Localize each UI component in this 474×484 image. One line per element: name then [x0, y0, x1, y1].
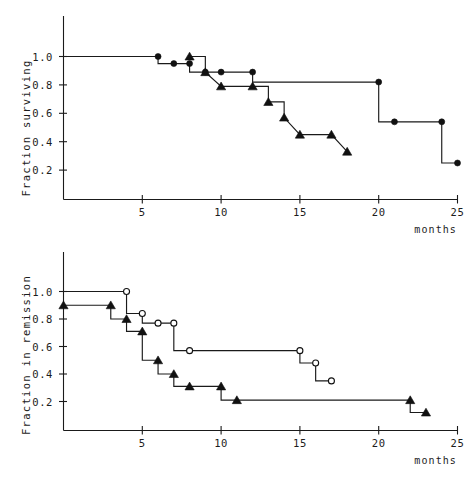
bottom-xtick-label-2: 10 [214, 437, 228, 449]
data-point-open-circle [297, 348, 303, 354]
top-ytick-label-4: 0.4 [32, 136, 53, 148]
data-point-filled-circle [376, 79, 382, 85]
bottom-xtick-label-4: 20 [372, 437, 386, 449]
data-point-filled-circle [250, 69, 256, 75]
survival-figure: 1.0 0.8 0.6 0.4 0.2 5 10 15 20 25 months… [0, 0, 474, 484]
data-point-filled-circle [171, 61, 177, 67]
top-ytick-label-3: 0.6 [32, 107, 53, 119]
data-point-filled-circle [155, 54, 161, 60]
top-series-filled-circle [64, 54, 461, 167]
data-point-open-circle [313, 360, 319, 366]
bottom-series-open-circle [64, 289, 335, 384]
bottom-chart-svg: 1.0 0.8 0.6 0.4 0.2 5 10 15 20 25 months… [0, 240, 474, 484]
top-xtick-label-4: 20 [372, 206, 386, 218]
bottom-y-axis-title: Fraction in remission [20, 275, 32, 435]
top-xtick-label-2: 10 [214, 206, 228, 218]
data-point-filled-circle [439, 119, 445, 125]
top-x-axis-title: months [414, 224, 457, 235]
data-point-open-circle [124, 289, 130, 295]
chart-panel-top: 1.0 0.8 0.6 0.4 0.2 5 10 15 20 25 months… [0, 0, 474, 240]
top-y-axis-title: Fraction surviving [20, 59, 32, 196]
bottom-ytick-label-4: 0.4 [32, 368, 53, 380]
top-xtick-label-5: 25 [451, 206, 465, 218]
chart-panel-bottom: 1.0 0.8 0.6 0.4 0.2 5 10 15 20 25 months… [0, 240, 474, 484]
step-curve-filled-circle-series [64, 57, 458, 164]
bottom-ytick-label-3: 0.6 [32, 341, 53, 353]
top-ytick-label-1: 1.0 [32, 51, 53, 63]
data-point-filled-circle [391, 119, 397, 125]
data-point-filled-circle [187, 61, 193, 67]
bottom-ytick-label-1: 1.0 [32, 286, 53, 298]
top-xtick-label-1: 5 [139, 206, 146, 218]
top-chart-svg: 1.0 0.8 0.6 0.4 0.2 5 10 15 20 25 months… [0, 0, 474, 240]
top-ytick-label-2: 0.8 [32, 79, 53, 91]
data-point-open-circle [187, 348, 193, 354]
data-point-open-circle [155, 320, 161, 326]
data-point-open-circle [139, 311, 145, 317]
bottom-series-filled-triangle [59, 301, 431, 416]
step-curve-filled-triangle-series [64, 305, 426, 412]
top-ytick-label-5: 0.2 [32, 164, 53, 176]
top-series-filled-triangle [185, 52, 352, 155]
data-point-filled-triangle [280, 113, 289, 121]
top-xtick-label-3: 15 [293, 206, 307, 218]
bottom-ytick-label-5: 0.2 [32, 396, 53, 408]
bottom-xtick-label-5: 25 [451, 437, 465, 449]
data-point-open-circle [328, 378, 334, 384]
data-point-filled-circle [218, 69, 224, 75]
bottom-x-axis-title: months [414, 455, 457, 466]
data-point-open-circle [171, 320, 177, 326]
bottom-ytick-label-2: 0.8 [32, 313, 53, 325]
data-point-filled-circle [455, 160, 461, 166]
bottom-xtick-label-3: 15 [293, 437, 307, 449]
bottom-xtick-label-1: 5 [139, 437, 146, 449]
